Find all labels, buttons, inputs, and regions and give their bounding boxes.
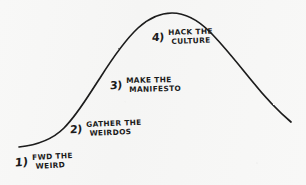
step-label-gather-the-weirdos: 2) GATHER THE WEIRDOS xyxy=(70,121,142,138)
step-text-3-line2: MANIFESTO xyxy=(129,84,181,94)
step-text-1: FWD THE WEIRD xyxy=(32,152,73,171)
step-label-fwd-the-weird: 1) FWD THE WEIRD xyxy=(15,154,72,171)
step-text-4: HACK THE CULTURE xyxy=(168,28,213,47)
step-number-1: 1) xyxy=(14,154,28,169)
step-number-3: 3) xyxy=(110,77,123,91)
step-text-2: GATHER THE WEIRDOS xyxy=(86,119,142,138)
step-text-2-line2: WEIRDOS xyxy=(89,127,142,138)
step-text-4-line2: CULTURE xyxy=(171,36,213,46)
step-label-hack-the-culture: 4) HACK THE CULTURE xyxy=(152,29,213,46)
step-number-4: 4) xyxy=(152,29,165,43)
step-label-make-the-manifesto: 3) MAKE THE MANIFESTO xyxy=(110,77,181,94)
step-number-2: 2) xyxy=(70,121,83,135)
sketch-canvas: 1) FWD THE WEIRD 2) GATHER THE WEIRDOS 3… xyxy=(0,0,306,185)
step-text-3: MAKE THE MANIFESTO xyxy=(126,76,181,94)
step-text-1-line2: WEIRD xyxy=(35,160,73,171)
